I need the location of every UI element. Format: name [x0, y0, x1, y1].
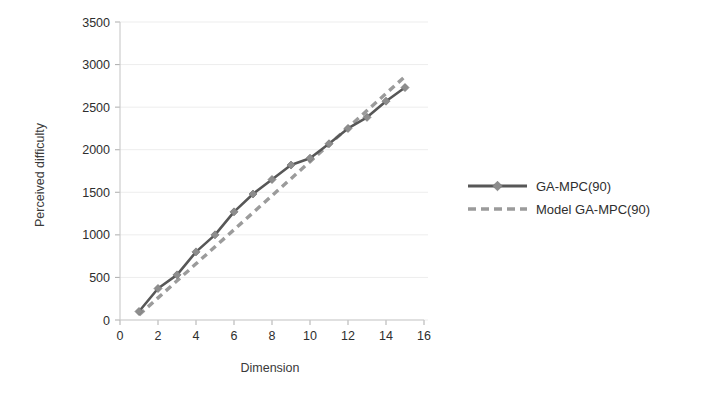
- legend-label-0: GA-MPC(90): [536, 179, 611, 194]
- x-tick-label: 4: [193, 329, 200, 343]
- x-tick-label: 12: [341, 329, 355, 343]
- chart-figure: Perceived difficulty Dimension 050010001…: [0, 0, 708, 396]
- y-tick-label: 2500: [82, 101, 110, 115]
- x-tick-label: 6: [231, 329, 238, 343]
- x-tick-label: 2: [155, 329, 162, 343]
- y-tick-label: 1000: [82, 228, 110, 242]
- legend-label-1: Model GA-MPC(90): [536, 202, 650, 217]
- x-tick-label: 14: [379, 329, 393, 343]
- y-tick-label: 1500: [82, 186, 110, 200]
- y-axis-title: Perceived difficulty: [33, 122, 47, 227]
- x-tick-label: 16: [417, 329, 431, 343]
- x-axis-title: Dimension: [240, 361, 299, 375]
- y-tick-label: 3000: [82, 58, 110, 72]
- y-tick-label: 0: [103, 314, 110, 328]
- y-tick-label: 500: [89, 271, 110, 285]
- x-tick-label: 10: [303, 329, 317, 343]
- y-tick-label: 2000: [82, 143, 110, 157]
- x-tick-label: 0: [117, 329, 124, 343]
- y-tick-label: 3500: [82, 16, 110, 30]
- x-tick-label: 8: [269, 329, 276, 343]
- line-chart-canvas: Perceived difficulty Dimension 050010001…: [0, 0, 708, 396]
